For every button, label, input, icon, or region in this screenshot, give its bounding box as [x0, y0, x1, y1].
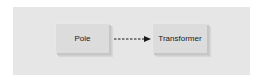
node-transformer[interactable]: Transformer: [152, 23, 207, 53]
arrowhead-icon: [144, 36, 151, 42]
diagram-panel: Pole Transformer: [13, 7, 250, 75]
node-transformer-label: Transformer: [158, 34, 201, 43]
dashed-arrow-connector: [114, 35, 152, 43]
node-pole-label: Pole: [74, 34, 90, 43]
node-pole[interactable]: Pole: [55, 23, 109, 53]
